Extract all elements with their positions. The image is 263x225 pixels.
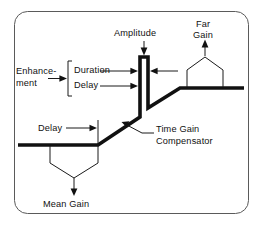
duration-label: Duration: [74, 65, 110, 75]
enhancement-label-line1: Enhance-: [16, 66, 57, 76]
enhancement-arrowhead: [59, 75, 67, 81]
far-gain-label-line2: Gain: [193, 30, 213, 40]
tgc-label-line1: Time Gain: [156, 124, 199, 134]
enhancement-label-line2: ment: [16, 78, 37, 88]
far-gain-shape: [187, 57, 223, 87]
tgc-leader-line: [125, 124, 142, 133]
diagram-figure: Mean Gain Delay Time Gain Compensator Am…: [0, 0, 263, 225]
delay-top-arrowhead: [130, 83, 138, 89]
mean-gain-arrowhead: [71, 188, 78, 196]
delay-lower-arrowhead: [90, 125, 98, 131]
duration-right-arrowhead: [150, 68, 158, 74]
waveform-svg: Mean Gain Delay Time Gain Compensator Am…: [0, 0, 263, 225]
amplitude-label: Amplitude: [114, 28, 156, 38]
delay-lower-label: Delay: [38, 123, 62, 133]
duration-arrowhead: [130, 68, 138, 74]
far-gain-label-line1: Far: [196, 19, 210, 29]
enhancement-bracket: [68, 61, 72, 96]
figure-border: [15, 12, 249, 214]
delay-top-label: Delay: [74, 80, 98, 90]
far-gain-arrowhead: [202, 40, 209, 48]
mean-gain-funnel: [50, 146, 98, 178]
amplitude-arrowhead: [141, 48, 148, 56]
mean-gain-label: Mean Gain: [43, 199, 89, 209]
tgc-label-line2: Compensator: [156, 136, 213, 146]
